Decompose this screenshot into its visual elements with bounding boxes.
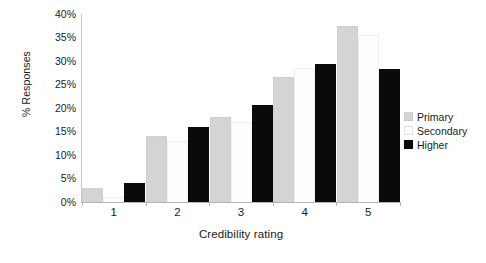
legend-swatch-icon (404, 126, 413, 135)
bar-primary-2 (146, 136, 167, 202)
bar-chart: % Responses 40%35%30%25%20%15%10%5%0% 12… (0, 0, 486, 263)
bar-primary-1 (82, 188, 103, 202)
bar-higher-5 (379, 69, 400, 202)
bar-higher-3 (252, 105, 273, 202)
legend-item-primary[interactable]: Primary (404, 110, 482, 123)
bar-group (82, 14, 145, 202)
legend-swatch-icon (404, 140, 413, 149)
y-axis-title: % Responses (20, 24, 32, 144)
legend-item-higher[interactable]: Higher (404, 138, 482, 151)
x-axis-tick-label: 5 (338, 206, 398, 218)
y-axis-tick-label: 20% (36, 103, 76, 114)
legend-item-secondary[interactable]: Secondary (404, 124, 482, 137)
y-axis-tick-label: 15% (36, 126, 76, 137)
legend-item-label: Higher (417, 139, 448, 151)
bar-primary-5 (337, 26, 358, 202)
bar-group (210, 14, 273, 202)
bar-secondary-3 (231, 122, 252, 202)
legend-item-label: Primary (417, 111, 453, 123)
bar-primary-3 (210, 117, 231, 202)
y-axis-tick-label: 35% (36, 32, 76, 43)
bar-higher-2 (188, 127, 209, 202)
y-axis-tick-label: 10% (36, 150, 76, 161)
y-axis-tick-labels: 40%35%30%25%20%15%10%5%0% (36, 0, 76, 263)
bar-group (146, 14, 209, 202)
bar-group (337, 14, 400, 202)
y-axis-tick-label: 25% (36, 79, 76, 90)
bar-higher-1 (124, 183, 145, 202)
x-axis-tick-mark (400, 202, 401, 206)
bar-secondary-5 (358, 35, 379, 202)
x-axis-tick-labels: 12345 (82, 206, 400, 222)
legend-swatch-icon (404, 112, 413, 121)
bar-group (273, 14, 336, 202)
y-axis-tick-label: 5% (36, 173, 76, 184)
x-axis-tick-label: 2 (147, 206, 207, 218)
plot-area (82, 14, 400, 202)
x-axis-tick-label: 1 (84, 206, 144, 218)
y-axis-tick-label: 40% (36, 9, 76, 20)
y-axis-tick-label: 0% (36, 197, 76, 208)
legend-item-label: Secondary (417, 125, 467, 137)
x-axis-title: Credibility rating (82, 228, 400, 240)
chart-legend: PrimarySecondaryHigher (404, 110, 482, 152)
bar-primary-4 (273, 77, 294, 202)
bar-secondary-2 (167, 141, 188, 202)
x-axis-tick-label: 4 (275, 206, 335, 218)
bar-higher-4 (315, 64, 336, 202)
x-axis-line (81, 202, 401, 203)
y-axis-tick-label: 30% (36, 56, 76, 67)
bar-secondary-1 (103, 197, 124, 202)
bar-secondary-4 (294, 68, 315, 202)
x-axis-tick-label: 3 (211, 206, 271, 218)
